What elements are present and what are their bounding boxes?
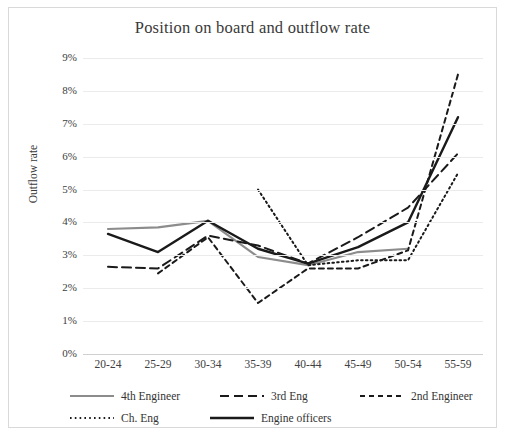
legend-label-3rd-eng: 3rd Eng <box>271 390 308 402</box>
y-axis-tick-label: 8% <box>37 84 77 96</box>
y-axis-tick-label: 6% <box>37 150 77 162</box>
legend-swatch-ch-eng <box>69 412 115 424</box>
y-axis-tick-label: 4% <box>37 215 77 227</box>
gridline <box>83 157 483 158</box>
legend-row: Ch. EngEngine officers <box>69 408 469 428</box>
legend-row: 4th Engineer3rd Eng2nd Engineer <box>69 386 469 406</box>
legend-label-ch-eng: Ch. Eng <box>121 412 159 424</box>
y-axis-tick-label: 0% <box>37 347 77 359</box>
legend-item-2nd-engineer[interactable]: 2nd Engineer <box>359 386 473 406</box>
gridline <box>83 91 483 92</box>
legend-swatch-3rd-eng <box>219 390 265 402</box>
legend-item-4th-engineer[interactable]: 4th Engineer <box>69 386 180 406</box>
gridline <box>83 288 483 289</box>
gridline <box>83 190 483 191</box>
legend-swatch-2nd-engineer <box>359 390 405 402</box>
y-axis-tick-label: 2% <box>37 281 77 293</box>
gridline <box>83 124 483 125</box>
y-axis-tick-label: 5% <box>37 183 77 195</box>
legend-swatch-4th-engineer <box>69 390 115 402</box>
y-axis-tick-label: 7% <box>37 117 77 129</box>
y-axis-tick-label: 9% <box>37 51 77 63</box>
y-axis-tick-labels: 0%1%2%3%4%5%6%7%8%9% <box>31 58 77 354</box>
gridline <box>83 58 483 59</box>
y-axis-tick-label: 3% <box>37 248 77 260</box>
gridline <box>83 222 483 223</box>
legend-swatch-engine-officers <box>209 412 255 424</box>
chart-title: Position on board and outflow rate <box>9 18 496 38</box>
chart-frame: Position on board and outflow rate Outfl… <box>8 7 497 428</box>
series-lines <box>83 58 483 354</box>
legend-item-ch-eng[interactable]: Ch. Eng <box>69 408 159 428</box>
x-axis-tick-labels: 20-2425-2930-3435-3940-4445-4950-5455-59 <box>83 358 483 380</box>
chart-legend: 4th Engineer3rd Eng2nd EngineerCh. EngEn… <box>69 386 469 434</box>
series-line-4th-engineer <box>108 221 408 265</box>
legend-item-engine-officers[interactable]: Engine officers <box>209 408 331 428</box>
y-axis-tick-label: 1% <box>37 314 77 326</box>
legend-item-3rd-eng[interactable]: 3rd Eng <box>219 386 308 406</box>
x-axis-line <box>83 354 483 355</box>
gridline <box>83 255 483 256</box>
gridline <box>83 321 483 322</box>
x-axis-tick-label: 55-59 <box>428 358 488 370</box>
legend-label-engine-officers: Engine officers <box>261 412 331 424</box>
legend-label-4th-engineer: 4th Engineer <box>121 390 180 402</box>
legend-label-2nd-engineer: 2nd Engineer <box>411 390 473 402</box>
plot-area <box>83 58 483 354</box>
